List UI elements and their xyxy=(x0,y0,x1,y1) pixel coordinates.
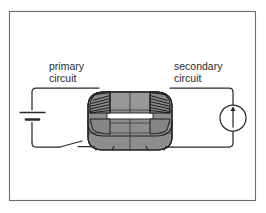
secondary-winding xyxy=(150,92,170,134)
primary-winding xyxy=(90,92,110,134)
figure-root: primary circuit secondary circuit xyxy=(0,0,266,213)
current-source-symbol xyxy=(220,105,246,131)
secondary-circuit-label-line2: circuit xyxy=(174,72,202,84)
primary-circuit-label-line1: primary xyxy=(49,60,85,72)
core-window-gap xyxy=(107,113,153,119)
primary-circuit-label-line2: circuit xyxy=(49,72,77,84)
transformer-diagram-svg: primary circuit secondary circuit xyxy=(0,0,266,213)
transformer-core xyxy=(88,92,172,150)
secondary-circuit-label-line1: secondary xyxy=(174,60,223,72)
